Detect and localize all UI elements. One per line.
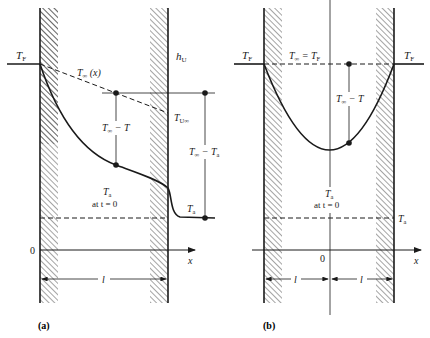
- label-at-t0: at t = 0: [314, 200, 340, 210]
- label-ta-right: Ta: [187, 203, 196, 215]
- panel-b: TF TF T∞ = TF T∞ − T Ta at t = 0 Ta 0 x …: [234, 0, 424, 332]
- t-inf-dashed-line: [40, 64, 168, 113]
- label-length: l: [102, 274, 105, 285]
- label-t-inf-x: T∞ (x): [77, 67, 101, 79]
- label-tf-right: TF: [404, 49, 414, 63]
- label-t-inf-minus-ta: T∞ − Ta: [189, 146, 220, 158]
- label-t-inf-minus-t: T∞ − T: [336, 93, 365, 105]
- label-x-axis: x: [413, 255, 419, 266]
- dot-top: [346, 61, 352, 67]
- label-origin: 0: [30, 245, 35, 256]
- label-origin: 0: [320, 253, 325, 264]
- dot-profile: [113, 162, 119, 168]
- dot-right-top: [202, 90, 208, 96]
- label-tf-left: TF: [242, 49, 252, 63]
- right-wall-hatch: [150, 8, 168, 303]
- label-t-inf-minus-t: T∞ − T: [102, 122, 131, 134]
- label-length-right: l: [360, 274, 363, 285]
- left-wall-hatch: [264, 8, 282, 303]
- label-x-axis: x: [187, 255, 193, 266]
- diagram-canvas: TF hU T∞ (x) TU∞ T∞ − T T∞ − Ta Ta at t …: [0, 0, 430, 338]
- caption-a: (a): [38, 320, 50, 332]
- left-wall-hatch: [40, 8, 58, 303]
- label-t-inf-eq-tf: T∞ = TF: [289, 50, 321, 62]
- dot-profile: [346, 140, 352, 146]
- right-wall-hatch: [376, 8, 394, 303]
- label-tf: TF: [16, 49, 26, 63]
- label-hu: hU: [176, 50, 187, 64]
- label-length-left: l: [294, 274, 297, 285]
- temperature-profile: [40, 64, 215, 218]
- label-t-u-inf: TU∞: [174, 112, 189, 124]
- dot-top: [113, 90, 119, 96]
- label-ta-center: Ta: [103, 186, 112, 198]
- label-at-t0: at t = 0: [92, 199, 118, 209]
- label-ta-right: Ta: [398, 213, 407, 225]
- caption-b: (b): [263, 320, 275, 332]
- temperature-profile: [264, 64, 394, 150]
- dot-right-bottom: [202, 215, 208, 221]
- panel-a: TF hU T∞ (x) TU∞ T∞ − T T∞ − Ta Ta at t …: [7, 8, 224, 332]
